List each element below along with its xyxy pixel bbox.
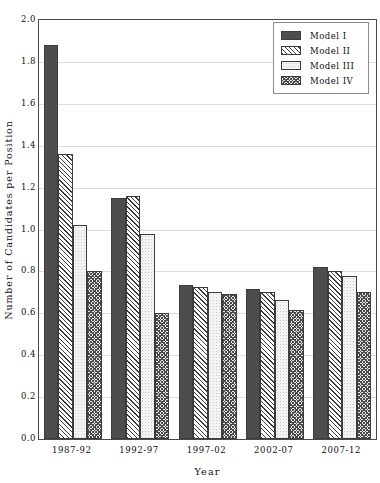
bar (73, 225, 88, 439)
bar (246, 289, 261, 439)
bar-chart: Number of Candidates per Position 0.00.2… (0, 0, 380, 483)
y-axis-tick-labels: 0.00.20.40.60.81.01.21.41.61.82.0 (0, 0, 36, 483)
y-tick-label: 0.8 (2, 265, 36, 275)
bar (222, 294, 237, 439)
y-tick-label: 0.0 (2, 433, 36, 443)
x-axis-title: Year (38, 466, 377, 477)
y-tick-label: 1.0 (2, 224, 36, 234)
bar (342, 276, 357, 439)
legend-label: Model IV (310, 76, 353, 86)
bar (126, 196, 141, 439)
legend: Model IModel IIModel IIIModel IV (273, 22, 369, 94)
legend-label: Model II (310, 46, 350, 56)
y-tick-label: 1.6 (2, 98, 36, 108)
x-tick-label: 2007-12 (308, 445, 375, 456)
y-tick-label: 1.2 (2, 182, 36, 192)
y-tick-label: 2.0 (2, 14, 36, 24)
bar (44, 45, 59, 439)
x-tick-label: 1997-02 (173, 445, 240, 456)
legend-item: Model I (281, 28, 362, 43)
legend-label: Model III (310, 61, 354, 71)
legend-item: Model II (281, 43, 362, 58)
x-tick-label: 1987-92 (38, 445, 105, 456)
bar-group (111, 20, 169, 439)
y-tick-label: 0.4 (2, 349, 36, 359)
y-tick-label: 0.6 (2, 307, 36, 317)
bar (289, 310, 304, 439)
y-tick-label: 0.2 (2, 391, 36, 401)
legend-swatch-icon (281, 46, 301, 55)
bar (260, 292, 275, 439)
legend-label: Model I (310, 31, 347, 41)
x-tick-label: 1992-97 (105, 445, 172, 456)
bar-group (44, 20, 102, 439)
y-tick-label: 1.8 (2, 56, 36, 66)
bar (155, 313, 170, 439)
bar (179, 285, 194, 439)
legend-swatch-icon (281, 76, 301, 85)
bar (357, 292, 372, 439)
bar (275, 300, 290, 439)
legend-swatch-icon (281, 61, 301, 70)
legend-swatch-icon (281, 31, 301, 40)
y-tick-label: 1.4 (2, 140, 36, 150)
bar (140, 234, 155, 439)
legend-item: Model III (281, 58, 362, 73)
bar (87, 271, 102, 439)
bar (313, 267, 328, 439)
bar (328, 271, 343, 439)
bar (208, 292, 223, 439)
bar-group (179, 20, 237, 439)
bar (193, 287, 208, 439)
x-tick-label: 2002-07 (240, 445, 307, 456)
bar (111, 198, 126, 439)
bar (58, 154, 73, 439)
legend-item: Model IV (281, 73, 362, 88)
